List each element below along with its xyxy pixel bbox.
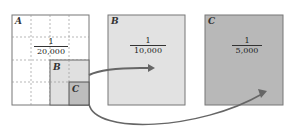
panel-a-label: A [15,16,22,26]
scale-c: 1 5,000 [232,36,262,55]
diagram-canvas [0,0,295,133]
inset-b-label: B [53,62,61,72]
scale-b: 1 10,000 [130,36,166,55]
panel-c-label: C [208,16,215,26]
panel-b-label: B [111,16,119,26]
inset-c-label: C [72,84,79,94]
scale-a: 1 20,000 [34,37,68,56]
